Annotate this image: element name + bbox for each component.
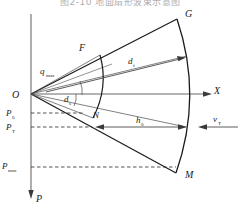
label-d-s: d s	[64, 94, 71, 106]
figure-root: 图2-10 地面扇形波束示意图	[0, 0, 241, 212]
ray-to-M	[31, 94, 176, 173]
label-group: O X P G F N M q max d s	[1, 8, 221, 204]
label-origin-O: O	[12, 89, 19, 100]
label-level-Pmax-base: P	[1, 161, 8, 171]
label-level-P0-sub: 0	[12, 115, 15, 120]
label-q-max-sub: max	[46, 73, 55, 78]
label-level-PT-sub: T	[12, 129, 15, 134]
sector-rays-group	[31, 19, 187, 173]
label-level-P0-base: P	[5, 108, 12, 118]
label-level-PT-base: P	[5, 122, 12, 132]
label-axis-X: X	[213, 85, 221, 96]
label-point-G: G	[185, 8, 192, 19]
label-h-0-sub: 0	[141, 122, 144, 127]
ds-angle-arc	[74, 94, 76, 106]
label-q-max-base: q	[40, 66, 45, 76]
label-d-f: d f	[128, 56, 135, 68]
h0-arrowhead-left	[95, 124, 104, 129]
h0-arrowhead-right	[178, 124, 187, 129]
p-axis-arrowhead	[28, 190, 33, 199]
vt-arrowhead	[198, 124, 207, 129]
ray-ht-guide	[31, 94, 186, 127]
label-point-N: N	[92, 110, 100, 120]
label-v-T: v T	[213, 114, 221, 126]
label-level-P0: P 0	[5, 108, 15, 120]
diagram-canvas: O X P G F N M q max d s	[0, 0, 241, 212]
label-q-max: q max	[40, 66, 55, 78]
far-arc-GM	[176, 19, 190, 173]
label-level-PT: P T	[5, 122, 15, 134]
level-lines-group	[31, 113, 176, 167]
x-axis-arrowhead	[203, 91, 212, 96]
label-point-F: F	[78, 42, 86, 53]
label-level-Pmax-sub: max	[8, 168, 17, 173]
label-h-0: h 0	[136, 115, 144, 127]
label-d-s-sub: s	[69, 101, 71, 106]
ray-to-G	[31, 19, 177, 94]
label-v-T-base: v	[213, 114, 217, 124]
label-point-M: M	[184, 169, 194, 180]
label-axis-P: P	[35, 193, 42, 204]
label-d-f-sub: f	[133, 63, 135, 68]
ray-to-N	[31, 94, 93, 118]
label-v-T-sub: T	[218, 121, 221, 126]
label-level-Pmax: P max	[1, 161, 17, 173]
